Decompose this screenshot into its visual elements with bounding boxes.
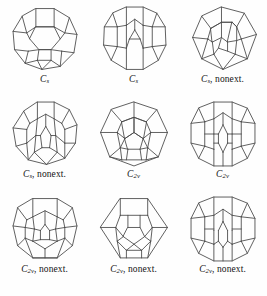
graph-cell: C2v, nonext. [89, 194, 178, 289]
polyhedron-svg [95, 194, 173, 264]
caption-note: , nonext. [32, 169, 66, 179]
graph-drawing-1 [6, 4, 84, 74]
graph-drawing-3 [184, 4, 262, 74]
graph-caption: C2v [127, 170, 140, 180]
graph-cell: C2v [89, 99, 178, 194]
graph-drawing-6 [184, 99, 262, 169]
graph-cell: C2v, nonext. [0, 194, 89, 289]
graph-caption: Cs, nonext. [201, 75, 244, 85]
polyhedron-svg [95, 4, 173, 74]
caption-subscript: 2v [223, 172, 229, 179]
polyhedron-svg [184, 99, 262, 169]
polyhedral-graph-figure: Cs [0, 0, 267, 296]
graph-cell: Cs [89, 4, 178, 99]
caption-note: , nonext. [34, 264, 68, 274]
graph-drawing-5 [95, 99, 173, 169]
caption-subscript: s [135, 77, 138, 84]
graph-cell: Cs, nonext. [0, 99, 89, 194]
polyhedron-svg [184, 194, 262, 264]
graph-caption: C2v [216, 170, 229, 180]
graph-caption: Cs, nonext. [23, 170, 66, 180]
polyhedron-svg [6, 99, 84, 169]
graph-drawing-9 [184, 194, 262, 264]
graph-cell: Cs [0, 4, 89, 99]
graph-cell: C2v [178, 99, 267, 194]
caption-note: , nonext. [210, 74, 244, 84]
polyhedron-svg [6, 4, 84, 74]
caption-subscript: s [46, 77, 49, 84]
graph-drawing-2 [95, 4, 173, 74]
graph-cell: Cs, nonext. [178, 4, 267, 99]
graph-cell: C2v, nonext. [178, 194, 267, 289]
caption-subscript: 2v [134, 172, 140, 179]
graph-caption: C2v, nonext. [110, 265, 157, 275]
graph-drawing-4 [6, 99, 84, 169]
polyhedron-svg [184, 4, 262, 74]
graph-caption: Cs [40, 75, 49, 85]
graph-caption: Cs [129, 75, 138, 85]
caption-note: , nonext. [123, 264, 157, 274]
polyhedron-svg [6, 194, 84, 264]
graph-caption: C2v, nonext. [21, 265, 68, 275]
graph-drawing-8 [95, 194, 173, 264]
caption-note: , nonext. [212, 264, 246, 274]
polyhedron-svg [95, 99, 173, 169]
graph-caption: C2v, nonext. [199, 265, 246, 275]
graph-drawing-7 [6, 194, 84, 264]
graph-grid: Cs [0, 0, 267, 285]
